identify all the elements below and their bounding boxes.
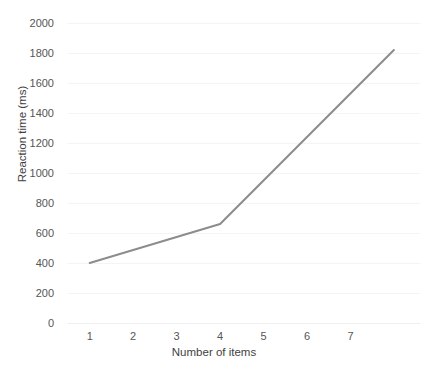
x-axis-title: Number of items	[0, 346, 428, 358]
x-axis-tick-label: 2	[130, 330, 136, 342]
x-axis-tick-label: 7	[347, 330, 353, 342]
x-axis-tick-label: 6	[304, 330, 310, 342]
x-axis-tick-label: 3	[174, 330, 180, 342]
y-axis-title: Reaction time (ms)	[16, 64, 28, 204]
series-line-reaction-time	[90, 50, 394, 263]
line-chart: 2000180016001400120010008006004002000 12…	[0, 0, 428, 372]
series-line-layer	[0, 0, 428, 372]
x-axis-tick-label: 1	[87, 330, 93, 342]
x-axis-tick-label: 4	[217, 330, 223, 342]
x-axis-tick-label: 5	[260, 330, 266, 342]
